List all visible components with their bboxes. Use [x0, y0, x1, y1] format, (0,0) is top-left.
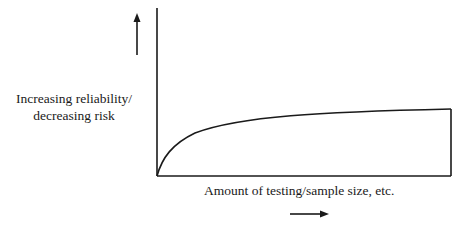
- right-arrow-icon: [290, 211, 329, 218]
- y-axis-label-line2: decreasing risk: [4, 107, 144, 124]
- y-axis-label: Increasing reliability/ decreasing risk: [4, 90, 144, 124]
- up-arrow-icon: [134, 13, 141, 55]
- reliability-diagram: Increasing reliability/ decreasing risk …: [0, 0, 468, 228]
- y-axis-label-line1: Increasing reliability/: [4, 90, 144, 107]
- reliability-curve: [157, 109, 451, 176]
- x-axis-label: Amount of testing/sample size, etc.: [204, 182, 394, 199]
